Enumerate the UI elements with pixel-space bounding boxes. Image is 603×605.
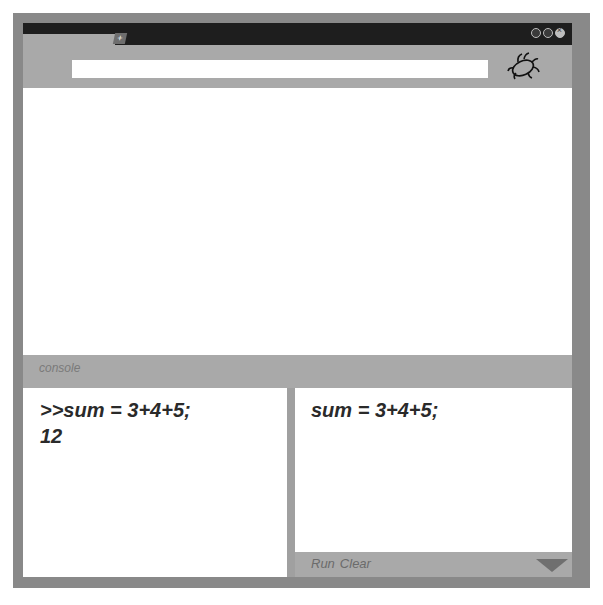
panel-divider[interactable] <box>287 388 295 577</box>
url-input[interactable] <box>72 60 488 78</box>
console-input[interactable]: sum = 3+4+5; <box>311 397 438 423</box>
plus-icon: + <box>116 33 123 43</box>
new-tab-button[interactable]: + <box>113 33 127 44</box>
console-output: >>sum = 3+4+5; 12 <box>40 397 191 449</box>
minimize-button[interactable] <box>531 28 541 38</box>
page-viewport <box>23 88 572 355</box>
close-button[interactable] <box>555 28 565 38</box>
active-tab[interactable] <box>23 34 115 45</box>
window-controls <box>531 28 565 38</box>
console-header <box>23 355 572 388</box>
triangle-down-icon[interactable] <box>536 559 568 572</box>
clear-button[interactable]: Clear <box>340 556 371 571</box>
console-actions: RunClear <box>311 556 376 571</box>
output-line: >>sum = 3+4+5; <box>40 397 191 423</box>
maximize-button[interactable] <box>543 28 553 38</box>
output-line: 12 <box>40 423 191 449</box>
console-label: console <box>39 361 80 375</box>
bug-icon[interactable] <box>506 50 542 82</box>
run-button[interactable]: Run <box>311 556 335 571</box>
